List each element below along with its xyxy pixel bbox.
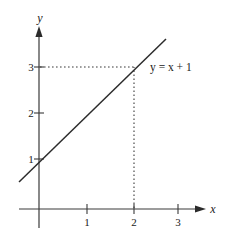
x-tick-label-3: 3	[175, 216, 181, 228]
x-axis-label: x	[209, 202, 216, 216]
y-tick-label-2: 2	[28, 107, 34, 119]
y-tick-label-3: 3	[28, 61, 34, 73]
plot-line-y-equals-x-plus-1	[19, 39, 166, 182]
y-tick-label-1: 1	[28, 153, 34, 165]
x-tick-label-2: 2	[131, 216, 137, 228]
y-axis-arrowhead	[35, 26, 42, 37]
equation-annotation: y = x + 1	[150, 61, 192, 74]
y-axis-label: y	[36, 11, 43, 25]
x-axis-arrowhead	[195, 205, 206, 212]
graph-canvas: y x 3 2 1 1 2 3 y = x + 1	[0, 0, 226, 244]
x-tick-label-1: 1	[84, 216, 90, 228]
line-graph-figure: y x 3 2 1 1 2 3 y = x + 1	[0, 0, 226, 244]
